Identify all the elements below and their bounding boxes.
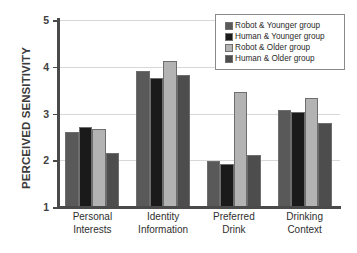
x-axis-tick-label-line: Preferred [199, 211, 270, 224]
legend-swatch-icon [225, 22, 233, 30]
legend-label: Robot & Older group [235, 43, 310, 52]
bar [79, 127, 93, 207]
x-axis-tick-label-line: Identity [128, 211, 199, 224]
bar [207, 161, 221, 207]
bar [65, 132, 79, 207]
bar [163, 61, 177, 207]
x-axis-tick-label-line: Interests [57, 224, 128, 237]
bar [278, 110, 292, 207]
legend-label: Human & Younger group [235, 32, 325, 41]
legend-swatch-icon [225, 55, 233, 63]
bar [150, 78, 164, 207]
bar [234, 92, 248, 207]
y-axis-tick-label: 5 [31, 14, 49, 26]
x-axis-line [57, 206, 341, 209]
x-axis-tick-label: PreferredDrink [199, 211, 270, 236]
legend-label: Robot & Younger group [235, 21, 320, 30]
x-axis-tick-label-line: Context [269, 224, 340, 237]
y-axis-line [57, 18, 60, 208]
legend-item: Robot & Younger group [225, 20, 340, 31]
legend-swatch-icon [225, 33, 233, 41]
bar-group [57, 20, 128, 207]
bar [92, 129, 106, 207]
legend-item: Human & Older group [225, 53, 340, 64]
legend-swatch-icon [225, 44, 233, 52]
bar [291, 112, 305, 207]
legend-item: Human & Younger group [225, 31, 340, 42]
bar [136, 71, 150, 208]
x-axis-tick-label-line: Information [128, 224, 199, 237]
y-axis-tick-label: 3 [31, 108, 49, 120]
bar [220, 164, 234, 207]
bar [305, 98, 319, 207]
y-axis-tick-label: 1 [31, 201, 49, 213]
y-axis-tick-label: 4 [31, 61, 49, 73]
x-axis-tick-label-line: Drinking [269, 211, 340, 224]
bar [247, 155, 261, 207]
legend-item: Robot & Older group [225, 42, 340, 53]
bar [318, 123, 332, 207]
x-axis-tick-label-line: Drink [199, 224, 270, 237]
legend: Robot & Younger groupHuman & Younger gro… [215, 14, 345, 70]
bar [177, 75, 191, 207]
bar-chart-figure: PERCEIVED SENSITIVITY 12345 PersonalInte… [0, 0, 357, 253]
x-axis-tick-label: DrinkingContext [269, 211, 340, 236]
x-axis-tick-label: IdentityInformation [128, 211, 199, 236]
legend-label: Human & Older group [235, 54, 315, 63]
x-axis-tick-label-line: Personal [57, 211, 128, 224]
x-axis-tick-label: PersonalInterests [57, 211, 128, 236]
y-axis-tick-label: 2 [31, 154, 49, 166]
bar-group [128, 20, 199, 207]
bar [106, 153, 120, 207]
